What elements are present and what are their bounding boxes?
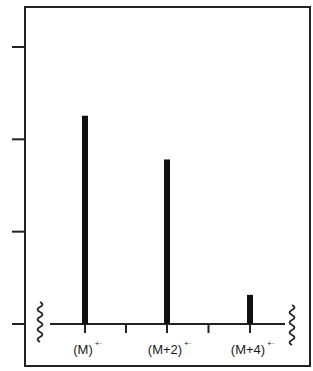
x-tick-label: (M+2) [148,342,182,357]
axis-break-right-icon [290,305,295,345]
x-tick-label-superscript: +· [95,339,102,348]
x-tick-label-superscript: +· [184,339,191,348]
axis-break-left-icon [38,302,43,342]
bar [82,116,88,324]
y-axis-ticks [12,47,25,324]
x-tick-label: (M+4) [231,342,265,357]
bar [164,159,170,324]
x-tick-label-superscript: +· [267,339,274,348]
bars [82,116,253,333]
mass-spectrum-chart: (M)+·(M+2)+·(M+4)+· [0,0,313,371]
bar [247,295,253,324]
x-axis-labels: (M)+·(M+2)+·(M+4)+· [73,339,274,357]
x-tick-label: (M) [73,342,93,357]
